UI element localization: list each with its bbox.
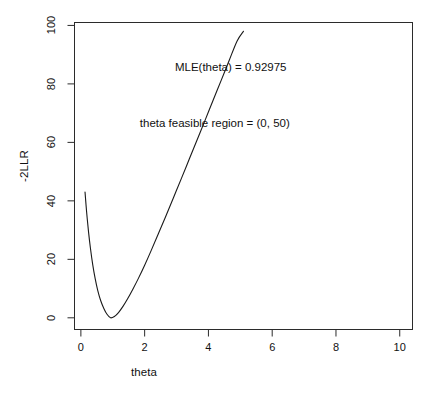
x-tick-label: 4 <box>205 341 211 353</box>
y-tick-label-text: 0 <box>43 303 59 333</box>
chart-canvas: 0246810 020406080100 theta -2LLR MLE(the… <box>0 0 436 404</box>
y-tick-label-text: 40 <box>43 186 59 216</box>
data-series-group <box>85 31 243 318</box>
y-tick-label-text: 80 <box>43 69 59 99</box>
x-tick-label: 8 <box>333 341 339 353</box>
line-series-2llr <box>85 31 243 318</box>
y-tick-label-text: 100 <box>43 10 59 40</box>
y-axis-tick-marks <box>68 25 75 317</box>
y-axis-title: -2LLR <box>18 126 30 206</box>
y-tick-label: 20 <box>36 251 66 267</box>
y-tick-label-text: 60 <box>43 127 59 157</box>
y-tick-label: 80 <box>36 76 66 92</box>
x-axis-title: theta <box>0 366 436 378</box>
x-tick-label: 0 <box>78 341 84 353</box>
y-tick-label: 40 <box>36 193 66 209</box>
chart-annotation-1: MLE(theta) = 0.92975 <box>175 61 287 73</box>
y-tick-label-text: 20 <box>43 244 59 274</box>
chart-annotation-2: theta feasible region = (0, 50) <box>140 117 290 129</box>
x-tick-label: 2 <box>142 341 148 353</box>
x-axis-tick-marks <box>81 330 400 337</box>
x-tick-label: 10 <box>394 341 406 353</box>
x-tick-label: 6 <box>269 341 275 353</box>
y-tick-label: 0 <box>36 310 66 326</box>
y-tick-label: 60 <box>36 134 66 150</box>
y-tick-label: 100 <box>36 17 66 33</box>
